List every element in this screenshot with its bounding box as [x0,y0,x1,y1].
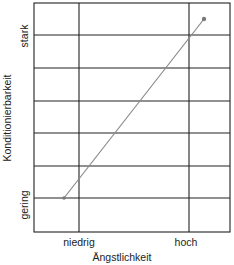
data-line [64,19,204,198]
data-point-start [62,196,66,200]
x-axis-label: Ängstlichkeit [93,251,152,263]
y-axis-label: Konditionierbarkeit [1,74,13,161]
y-tick-gering: gering [18,190,30,219]
chart: niedrig hoch Ängstlichkeit stark gering … [0,0,234,265]
x-tick-hoch: hoch [175,236,198,248]
x-tick-niedrig: niedrig [63,236,95,248]
data-series [62,17,206,200]
y-tick-stark: stark [18,24,30,48]
data-point-end [202,17,206,21]
